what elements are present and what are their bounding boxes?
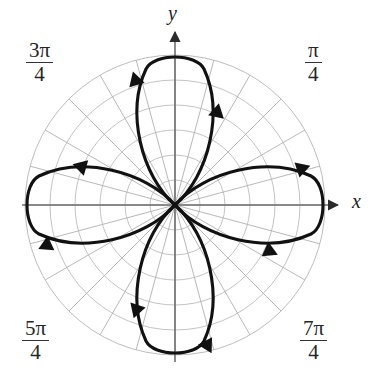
- angle-label-pi-over-4: π 4: [305, 40, 322, 85]
- fraction-denominator: 4: [22, 341, 49, 363]
- fraction-5pi-4: 5π 4: [22, 318, 49, 363]
- direction-arrow-right-lower: [262, 242, 281, 262]
- fraction-denominator: 4: [26, 63, 53, 85]
- fraction-denominator: 4: [300, 341, 327, 363]
- fraction-denominator: 4: [305, 63, 322, 85]
- direction-arrow-bottom-right: [198, 337, 219, 357]
- fraction-7pi-4: 7π 4: [300, 318, 327, 363]
- fraction-numerator: π: [305, 40, 322, 63]
- direction-arrow-top-right: [208, 102, 227, 119]
- fraction-numerator: 3π: [26, 40, 53, 63]
- fraction-pi-4: π 4: [305, 40, 322, 85]
- fraction-numerator: 5π: [22, 318, 49, 341]
- angle-label-3pi-over-4: 3π 4: [26, 40, 53, 85]
- fraction-3pi-4: 3π 4: [26, 40, 53, 85]
- angle-label-5pi-over-4: 5π 4: [22, 318, 49, 363]
- angle-label-7pi-over-4: 7π 4: [300, 318, 327, 363]
- fraction-numerator: 7π: [300, 318, 327, 341]
- x-axis-label: x: [352, 190, 361, 213]
- curve-direction-arrows: [35, 69, 313, 357]
- direction-arrow-bottom-left: [126, 303, 146, 321]
- y-axis-label: y: [168, 2, 177, 25]
- polar-rose-figure: 3π 4 π 4 5π 4 7π 4 y x: [0, 0, 372, 381]
